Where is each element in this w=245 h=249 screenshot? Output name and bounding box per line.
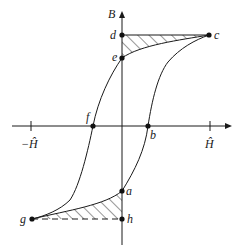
label-e: e	[112, 50, 118, 64]
h-axis-arrow-icon	[225, 123, 232, 129]
point-d	[119, 32, 124, 37]
label-g: g	[20, 212, 26, 226]
point-c	[206, 32, 211, 37]
label-a: a	[126, 184, 132, 198]
point-f	[90, 123, 95, 128]
label-b: b	[150, 128, 156, 142]
point-e	[119, 55, 124, 60]
label-d: d	[110, 28, 117, 42]
label-h: h	[127, 212, 133, 226]
point-h	[119, 216, 124, 221]
b-axis-label: B	[108, 7, 116, 21]
b-axis-arrow-icon	[119, 11, 125, 18]
hysteresis-loop-diagram: B d c e f b a h g −Ĥ Ĥ	[0, 0, 245, 249]
neg-h-hat-label: −Ĥ	[21, 137, 39, 151]
pos-h-hat-label: Ĥ	[204, 137, 215, 151]
label-f: f	[86, 110, 91, 124]
point-g	[29, 216, 34, 221]
upper-energy-region	[122, 35, 209, 58]
label-c: c	[214, 28, 220, 42]
point-a	[119, 188, 124, 193]
